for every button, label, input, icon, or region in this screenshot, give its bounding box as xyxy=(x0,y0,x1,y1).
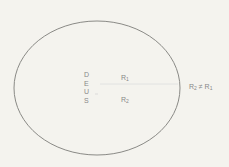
r2-label: R2 xyxy=(121,96,129,105)
rel-right-sub: 1 xyxy=(210,85,213,91)
deus-vertical-label: D E U S xyxy=(84,71,89,105)
rel-op: ≠ xyxy=(199,83,203,90)
letter: E xyxy=(84,80,89,89)
letter: D xyxy=(84,71,89,80)
r1-label: R1 xyxy=(121,74,129,83)
letter: S xyxy=(84,97,89,106)
outer-ellipse xyxy=(14,21,180,155)
relation-label: R2 ≠ R1 xyxy=(189,83,212,92)
rel-left-sub: 2 xyxy=(194,85,197,91)
r1-sub: 1 xyxy=(126,76,129,82)
r2-sub: 2 xyxy=(126,98,129,104)
letter: U xyxy=(84,88,89,97)
